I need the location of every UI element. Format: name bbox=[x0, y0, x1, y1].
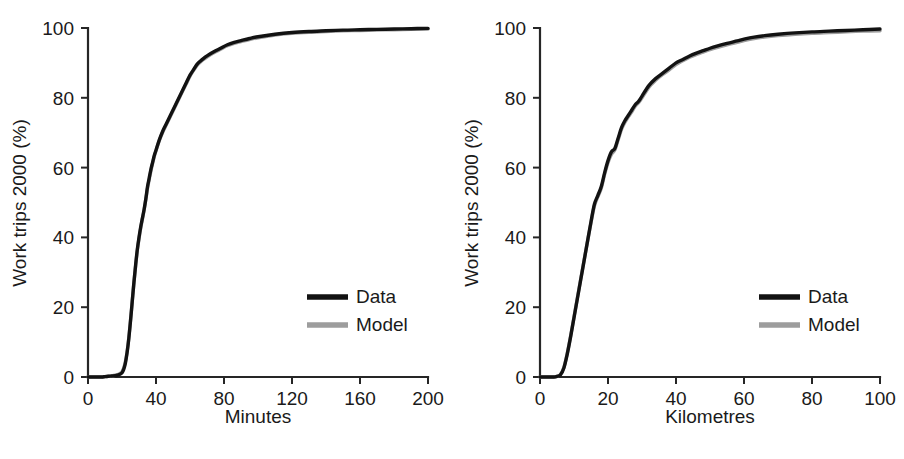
x-axis-title: Kilometres bbox=[665, 406, 755, 427]
legend-kilometres: Data Model bbox=[759, 286, 860, 335]
chart-svg-minutes: 02040608010004080120160200 Data Model Mi… bbox=[0, 0, 452, 459]
figure-two-panel-cdf: 02040608010004080120160200 Data Model Mi… bbox=[0, 0, 904, 459]
axis-tick-labels: 02040608010004080120160200 bbox=[42, 18, 444, 409]
legend-label-data: Data bbox=[808, 286, 849, 307]
y-tick-label: 20 bbox=[505, 297, 526, 318]
x-tick-label: 160 bbox=[344, 388, 376, 409]
x-axis-title: Minutes bbox=[225, 406, 292, 427]
y-tick-label: 0 bbox=[515, 367, 526, 388]
legend-label-model: Model bbox=[356, 314, 408, 335]
y-tick-label: 20 bbox=[53, 297, 74, 318]
y-axis-title: Work trips 2000 (%) bbox=[9, 119, 30, 287]
x-tick-label: 100 bbox=[864, 388, 896, 409]
y-tick-label: 60 bbox=[53, 158, 74, 179]
y-tick-label: 100 bbox=[494, 18, 526, 39]
y-tick-label: 100 bbox=[42, 18, 74, 39]
x-tick-label: 200 bbox=[412, 388, 444, 409]
x-tick-label: 0 bbox=[83, 388, 94, 409]
legend-label-model: Model bbox=[808, 314, 860, 335]
legend-minutes: Data Model bbox=[307, 286, 408, 335]
y-tick-label: 40 bbox=[505, 227, 526, 248]
chart-panel-kilometres: 020406080100020406080100 Data Model Kilo… bbox=[452, 0, 904, 459]
legend-label-data: Data bbox=[356, 286, 397, 307]
axis-tick-labels: 020406080100020406080100 bbox=[494, 18, 896, 409]
chart-svg-kilometres: 020406080100020406080100 Data Model Kilo… bbox=[452, 0, 904, 459]
x-tick-label: 20 bbox=[597, 388, 618, 409]
y-tick-label: 40 bbox=[53, 227, 74, 248]
y-axis-title: Work trips 2000 (%) bbox=[461, 119, 482, 287]
y-tick-label: 80 bbox=[53, 88, 74, 109]
axes-group-kilometres: 020406080100020406080100 bbox=[494, 18, 896, 409]
y-tick-label: 60 bbox=[505, 158, 526, 179]
x-tick-label: 0 bbox=[535, 388, 546, 409]
x-tick-label: 80 bbox=[801, 388, 822, 409]
x-tick-label: 40 bbox=[145, 388, 166, 409]
y-tick-label: 80 bbox=[505, 88, 526, 109]
chart-panel-minutes: 02040608010004080120160200 Data Model Mi… bbox=[0, 0, 452, 459]
y-tick-label: 0 bbox=[63, 367, 74, 388]
axes-group-minutes: 02040608010004080120160200 bbox=[42, 18, 444, 409]
